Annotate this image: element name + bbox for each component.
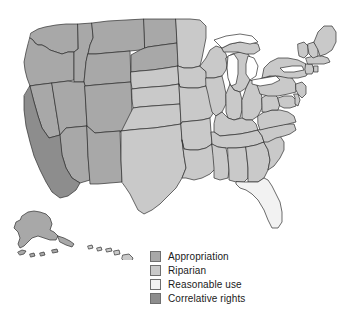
alaska-islet-1 <box>30 253 35 257</box>
legend-swatch-correlative-rights <box>150 293 161 304</box>
state-maryland[interactable] <box>278 96 296 108</box>
map-legend: Appropriation Riparian Reasonable use Co… <box>150 249 310 305</box>
legend-swatch-reasonable-use <box>150 279 161 290</box>
legend-item-appropriation[interactable]: Appropriation <box>150 249 310 263</box>
state-minnesota[interactable] <box>176 19 206 68</box>
state-florida[interactable] <box>236 178 282 228</box>
state-delaware[interactable] <box>294 94 300 106</box>
state-texas[interactable] <box>121 124 186 214</box>
state-hawaii-big-island[interactable] <box>122 254 133 260</box>
lake-michigan <box>227 54 238 86</box>
legend-swatch-riparian <box>150 265 161 276</box>
legend-label-riparian: Riparian <box>168 265 206 276</box>
state-hawaii-maui[interactable] <box>114 250 120 255</box>
alaska-islet-3 <box>52 249 58 253</box>
state-mississippi[interactable] <box>212 144 229 180</box>
legend-label-appropriation: Appropriation <box>168 251 229 262</box>
state-connecticut[interactable] <box>305 64 314 74</box>
state-montana[interactable] <box>88 19 145 54</box>
state-wyoming[interactable] <box>84 51 131 86</box>
alaska-islet-2 <box>40 252 45 256</box>
state-georgia[interactable] <box>246 142 270 182</box>
state-arkansas[interactable] <box>181 118 212 150</box>
us-water-rights-map <box>0 0 342 260</box>
state-vermont[interactable] <box>298 42 308 58</box>
state-alabama[interactable] <box>228 147 248 182</box>
state-rhode-island[interactable] <box>314 66 318 72</box>
state-hawaii-molokai[interactable] <box>106 248 112 252</box>
legend-item-reasonable-use[interactable]: Reasonable use <box>150 277 310 291</box>
state-hawaii-kauai[interactable] <box>88 245 93 249</box>
legend-item-riparian[interactable]: Riparian <box>150 263 310 277</box>
state-hawaii-oahu[interactable] <box>97 247 102 251</box>
map-states-layer <box>14 19 336 260</box>
state-new-mexico[interactable] <box>87 126 122 184</box>
legend-item-correlative-rights[interactable]: Correlative rights <box>150 291 310 305</box>
legend-label-reasonable-use: Reasonable use <box>168 279 242 290</box>
state-west-virginia[interactable] <box>262 94 280 112</box>
state-massachusetts[interactable] <box>306 56 330 64</box>
legend-label-correlative-rights: Correlative rights <box>168 293 245 304</box>
lake-huron <box>246 56 258 80</box>
state-alaska[interactable] <box>14 211 58 248</box>
map-figure: Appropriation Riparian Reasonable use Co… <box>0 0 342 313</box>
alaska-aleutian-chain <box>18 250 26 255</box>
alaska-panhandle <box>58 236 74 247</box>
legend-swatch-appropriation <box>150 251 161 262</box>
